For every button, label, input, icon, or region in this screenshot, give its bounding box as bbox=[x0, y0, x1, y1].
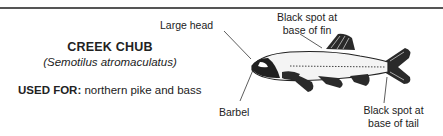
creek-chub-card: CREEK CHUB (Semotilus atromaculatus) USE… bbox=[0, 0, 443, 136]
label-line: Black spot at bbox=[356, 104, 431, 117]
label-line: Black spot at bbox=[262, 11, 352, 24]
label-line: base of tail bbox=[356, 117, 431, 130]
label-large-head: Large head bbox=[160, 19, 213, 32]
label-black-spot-fin: Black spot at base of fin bbox=[262, 11, 352, 37]
label-black-spot-tail: Black spot at base of tail bbox=[356, 104, 431, 130]
label-barbel: Barbel bbox=[219, 106, 249, 119]
label-line: base of fin bbox=[262, 24, 352, 37]
